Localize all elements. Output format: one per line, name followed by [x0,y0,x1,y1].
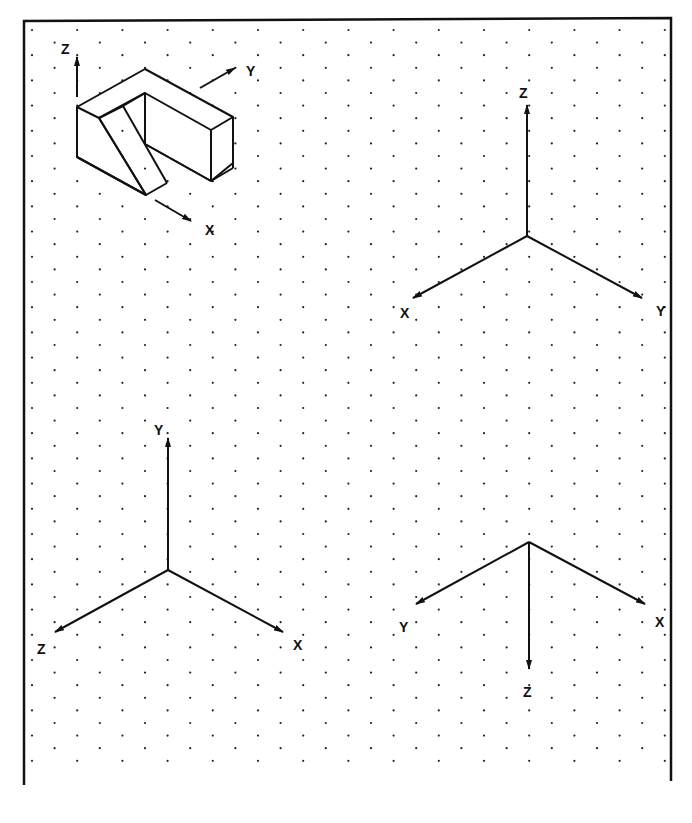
axis-set-top-right [413,105,642,298]
dot-grid [31,29,666,762]
axis-label-y: Y [656,303,666,319]
object-x-arrow [155,200,191,221]
axis-label-y: Y [399,619,409,635]
sheet-border [24,18,671,785]
axis-label-x: X [293,637,303,653]
axis-label-y: Y [154,422,164,438]
axis-set-bottom-left [55,438,283,632]
axis-label-z: Z [523,684,532,700]
axis-label-z: Z [37,641,46,657]
axis-label-z: Z [519,85,528,101]
object-y-label: Y [246,63,256,79]
object-x-label: X [205,222,215,238]
axis-set-bottom-right [416,542,645,669]
object-z-label: Z [61,41,70,57]
isometric-dot-sheet: Z Y X Z X Y Y Z X Z Y X [0,0,692,823]
isometric-object [77,69,233,195]
axis-label-x: X [400,305,410,321]
object-y-arrow [200,68,235,88]
axis-label-x: X [655,614,665,630]
